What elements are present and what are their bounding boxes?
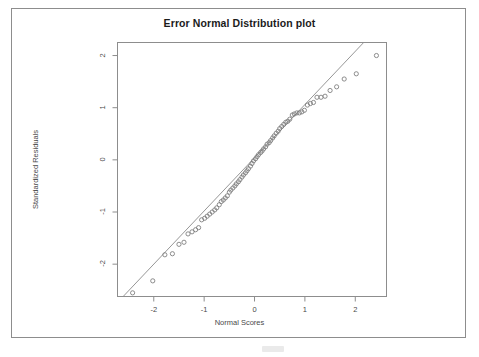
data-point bbox=[170, 252, 174, 256]
data-point bbox=[328, 88, 332, 92]
data-point bbox=[197, 226, 201, 230]
x-tick-label: 1 bbox=[293, 305, 317, 314]
qq-reference-line bbox=[123, 43, 364, 297]
plot-svg bbox=[0, 0, 479, 357]
data-point bbox=[193, 228, 197, 232]
data-point bbox=[177, 242, 181, 246]
y-axis-ticks bbox=[113, 56, 118, 265]
data-point bbox=[151, 279, 155, 283]
screenshot-page: Error Normal Distribution plot Normal Sc… bbox=[0, 0, 479, 357]
y-tick-label: -1 bbox=[97, 200, 106, 224]
data-point bbox=[186, 232, 190, 236]
y-tick-label: 0 bbox=[97, 147, 106, 171]
data-point bbox=[374, 53, 378, 57]
x-tick-label: 0 bbox=[243, 305, 267, 314]
data-points bbox=[131, 53, 379, 295]
x-tick-label: -2 bbox=[142, 305, 166, 314]
x-tick-label: -1 bbox=[192, 305, 216, 314]
reference-line bbox=[123, 43, 364, 297]
y-tick-label: -2 bbox=[97, 252, 106, 276]
data-point bbox=[131, 291, 135, 295]
x-axis-ticks bbox=[154, 297, 355, 302]
qq-plot: Normal Scores Standardized Residuals -2-… bbox=[0, 0, 479, 357]
x-tick-label: 2 bbox=[343, 305, 367, 314]
data-point bbox=[163, 253, 167, 257]
data-point bbox=[342, 77, 346, 81]
y-tick-label: 1 bbox=[97, 95, 106, 119]
data-point bbox=[315, 95, 319, 99]
scan-artifact bbox=[262, 346, 284, 352]
data-point bbox=[319, 95, 323, 99]
y-axis-label: Standardized Residuals bbox=[31, 80, 40, 260]
data-point bbox=[182, 240, 186, 244]
x-axis-label: Normal Scores bbox=[0, 318, 479, 327]
data-point bbox=[335, 85, 339, 89]
data-point bbox=[354, 72, 358, 76]
data-point bbox=[323, 94, 327, 98]
y-tick-label: 2 bbox=[97, 43, 106, 67]
